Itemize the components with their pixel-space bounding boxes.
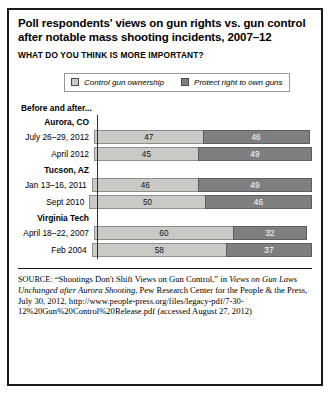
bar-segment-control-gun-ownership: 58 (92, 243, 227, 257)
legend-item-control-gun-ownership: Control gun ownership (71, 78, 164, 87)
chart-row: April 20124549 (21, 146, 312, 163)
legend-swatch-icon (71, 78, 79, 86)
bar-segment-protect-right-to-own-guns: 32 (233, 226, 308, 240)
bar-segment-control-gun-ownership: 47 (94, 130, 204, 144)
chart-row: July 26–29, 20124746 (21, 129, 312, 146)
legend-swatch-icon (181, 78, 189, 86)
source-kicker: SOURCE: (18, 275, 53, 284)
source-note: SOURCE: “Shootings Don't Shift Views on … (18, 268, 312, 317)
bar-segment-protect-right-to-own-guns: 46 (203, 130, 310, 144)
chart-rows: Aurora, COJuly 26–29, 20124746April 2012… (21, 115, 312, 259)
stacked-bar: 6032 (94, 226, 307, 240)
chart-legend: Control gun ownership Protect right to o… (64, 73, 290, 92)
bar-segment-protect-right-to-own-guns: 49 (198, 147, 312, 161)
row-label: April 18–22, 2007 (21, 228, 93, 238)
row-label: Sept 2010 (21, 197, 88, 207)
bar-segment-protect-right-to-own-guns: 46 (205, 195, 312, 209)
row-label: Jan 13–16, 2011 (21, 180, 91, 190)
legend-item-protect-right-to-own-guns: Protect right to own guns (181, 78, 283, 87)
stacked-bar: 4746 (94, 130, 310, 144)
page-title: Poll respondents' views on gun rights vs… (18, 17, 312, 44)
stacked-bar: 5837 (92, 243, 312, 257)
chart-row: April 18–22, 20076032 (21, 225, 312, 242)
group-heading: Tucson, AZ (21, 163, 93, 177)
stacked-bar: 5046 (89, 195, 312, 209)
legend-label: Control gun ownership (84, 78, 164, 87)
chart-subtitle: WHAT DO YOU THINK IS MORE IMPORTANT? (18, 50, 312, 60)
y-axis-line (97, 115, 98, 259)
stacked-bar-chart: Aurora, COJuly 26–29, 20124746April 2012… (21, 115, 312, 259)
row-label: July 26–29, 2012 (21, 132, 93, 142)
chart-row: Feb 20045837 (21, 242, 312, 259)
source-text-part-1: “Shootings Don't Shift Views on Gun Cont… (55, 274, 229, 284)
stacked-bar: 4549 (94, 147, 312, 161)
bar-segment-control-gun-ownership: 46 (92, 178, 199, 192)
group-heading: Virginia Tech (21, 211, 93, 225)
row-label: Feb 2004 (21, 245, 91, 255)
group-heading: Aurora, CO (21, 115, 93, 129)
chart-row: Jan 13–16, 20114649 (21, 177, 312, 194)
bar-segment-control-gun-ownership: 45 (94, 147, 199, 161)
bar-segment-protect-right-to-own-guns: 49 (198, 178, 312, 192)
stacked-bar: 4649 (92, 178, 312, 192)
bar-segment-protect-right-to-own-guns: 37 (226, 243, 312, 257)
chart-row: Sept 20105046 (21, 194, 312, 211)
bar-segment-control-gun-ownership: 60 (94, 226, 234, 240)
bar-segment-control-gun-ownership: 50 (89, 195, 206, 209)
row-label: April 2012 (21, 149, 93, 159)
legend-label: Protect right to own guns (194, 78, 283, 87)
chart-figure: Poll respondents' views on gun rights vs… (7, 8, 323, 386)
figure-inner: Poll respondents' views on gun rights vs… (9, 10, 321, 259)
before-after-label: Before and after... (21, 103, 312, 113)
